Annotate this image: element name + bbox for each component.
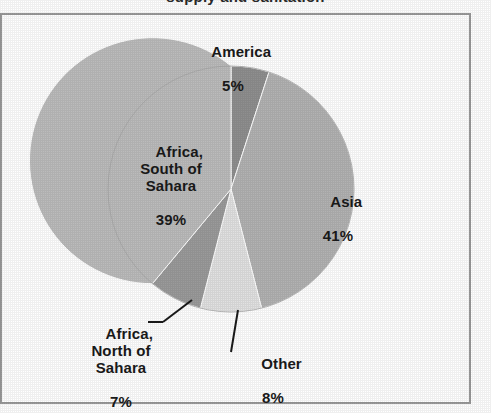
pie-label-other-name: Other [261, 355, 302, 372]
pie-label-africa-north-of-sahara-name: Africa,North ofSahara [91, 325, 153, 376]
pie-label-africa-south-of-sahara: Africa,South ofSahara 39% [110, 126, 232, 262]
pie-label-america-name: America [211, 43, 271, 60]
pie-label-africa-south-of-sahara-value: 39% [110, 211, 232, 228]
pie-label-america-value: 5% [168, 77, 298, 94]
pie-label-asia: Asia 41% [290, 176, 386, 278]
pie-label-africa-south-of-sahara-name: Africa,South ofSahara [140, 143, 203, 194]
pie-label-africa-north-of-sahara: Africa,North ofSahara 7% [60, 308, 182, 413]
chart-page: supply and sanitation America 5% Asia 41… [0, 0, 491, 413]
pie-label-asia-name: Asia [330, 193, 362, 210]
pie-label-other: Other 8% [228, 338, 318, 413]
pie-label-asia-value: 41% [290, 227, 386, 244]
pie-label-other-value: 8% [228, 389, 318, 406]
pie-label-africa-north-of-sahara-value: 7% [60, 393, 182, 410]
pie-label-america: America 5% [168, 26, 298, 128]
